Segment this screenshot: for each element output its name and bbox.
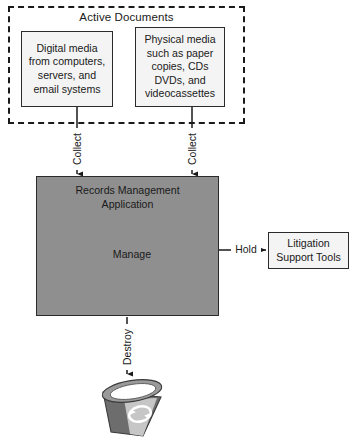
edge-label-hold: Hold (231, 243, 261, 257)
edge-label-collect-right: Collect (186, 128, 200, 170)
edge-label-destroy: Destroy (121, 324, 135, 370)
diagram-canvas: Active Documents Digital media from comp… (0, 0, 359, 441)
recycle-bin-icon (101, 376, 164, 436)
litigation-support-tools-box[interactable]: Litigation Support Tools (268, 232, 349, 269)
records-management-application-label: Records Management Application (36, 184, 219, 211)
active-documents-label: Active Documents (8, 8, 245, 26)
manage-process-label: Manage (96, 248, 168, 260)
source-box-digital-media[interactable]: Digital media from computers, servers, a… (21, 31, 113, 107)
source-box-physical-media[interactable]: Physical media such as paper copies, CDs… (135, 27, 225, 107)
edge-label-collect-left: Collect (71, 128, 85, 170)
